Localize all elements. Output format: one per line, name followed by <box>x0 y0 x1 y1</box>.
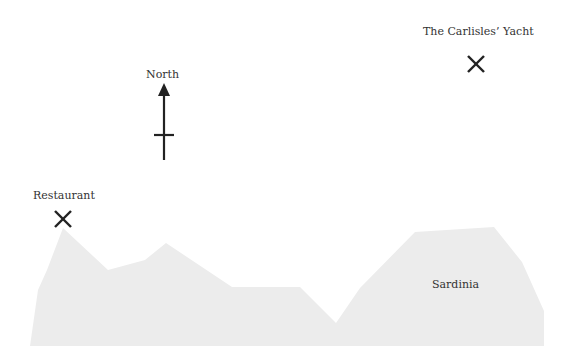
north-label: North <box>146 69 179 80</box>
map-canvas: The Carlisles’ Yacht North Restaurant Sa… <box>0 0 567 361</box>
yacht-x-marker-icon <box>468 56 484 72</box>
north-arrow-icon <box>154 83 174 160</box>
yacht-label: The Carlisles’ Yacht <box>423 26 534 37</box>
sardinia-label: Sardinia <box>432 279 479 290</box>
restaurant-x-marker-icon <box>55 211 71 227</box>
restaurant-label: Restaurant <box>33 190 95 201</box>
map-graphic <box>0 0 567 361</box>
